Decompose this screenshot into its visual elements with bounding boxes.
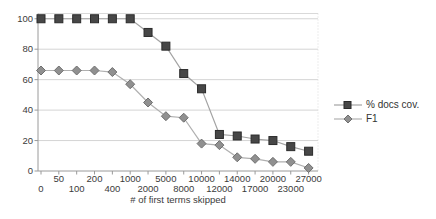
legend-label-f1: F1 [366, 113, 378, 124]
legend-item-f1: F1 [333, 112, 419, 125]
x-tick-label: 8000 [173, 183, 194, 194]
y-tick-label: 20 [22, 135, 33, 146]
data-point-diamond [108, 68, 117, 77]
legend-square-marker-icon [333, 100, 363, 110]
data-point-diamond [251, 154, 260, 163]
data-point-diamond [54, 66, 63, 75]
data-point-square [73, 15, 81, 23]
y-tick-label: 80 [22, 43, 33, 54]
legend-item-docs-cov: % docs cov. [333, 98, 419, 111]
data-point-square [55, 15, 63, 23]
x-tick-label: 12000 [206, 183, 232, 194]
data-point-square [108, 15, 116, 23]
data-point-square [233, 132, 241, 140]
data-point-square [37, 15, 45, 23]
data-point-square [215, 130, 223, 138]
data-point-diamond [72, 66, 81, 75]
y-tick-label: 0 [28, 165, 33, 176]
chart-figure: 0204060801000501002004001000200050008000… [0, 0, 436, 219]
y-tick-label: 40 [22, 104, 33, 115]
chart-legend: % docs cov. F1 [333, 98, 419, 125]
x-tick-label: 27000 [295, 173, 321, 184]
data-point-square [269, 137, 277, 145]
data-point-square [287, 143, 295, 151]
data-point-diamond [90, 66, 99, 75]
x-tick-label: 23000 [278, 183, 304, 194]
data-point-square [180, 70, 188, 78]
x-tick-label: 17000 [242, 183, 268, 194]
x-tick-label: 0 [38, 183, 43, 194]
data-point-square [144, 28, 152, 36]
y-tick-label: 60 [22, 74, 33, 85]
data-point-square [91, 15, 99, 23]
data-point-square [305, 147, 313, 155]
data-point-square [198, 85, 206, 93]
data-point-diamond [286, 157, 295, 166]
series-line-f1 [41, 71, 309, 168]
data-point-diamond [215, 141, 224, 150]
data-point-square [126, 15, 134, 23]
y-tick-label: 100 [17, 13, 33, 24]
x-axis-title: # of first terms skipped [38, 193, 318, 206]
data-point-square [162, 42, 170, 50]
x-tick-label: 100 [69, 183, 85, 194]
data-point-diamond [233, 153, 242, 162]
data-point-diamond [179, 113, 188, 122]
x-tick-label: 200 [87, 173, 103, 184]
data-point-square [251, 135, 259, 143]
data-point-diamond [268, 157, 277, 166]
series-line-docs-cov [41, 19, 309, 151]
x-tick-label: 2000 [137, 183, 158, 194]
x-tick-label: 50 [54, 173, 65, 184]
legend-label-docs-cov: % docs cov. [366, 99, 419, 110]
x-tick-label: 400 [104, 183, 120, 194]
legend-diamond-marker-icon [333, 114, 363, 124]
